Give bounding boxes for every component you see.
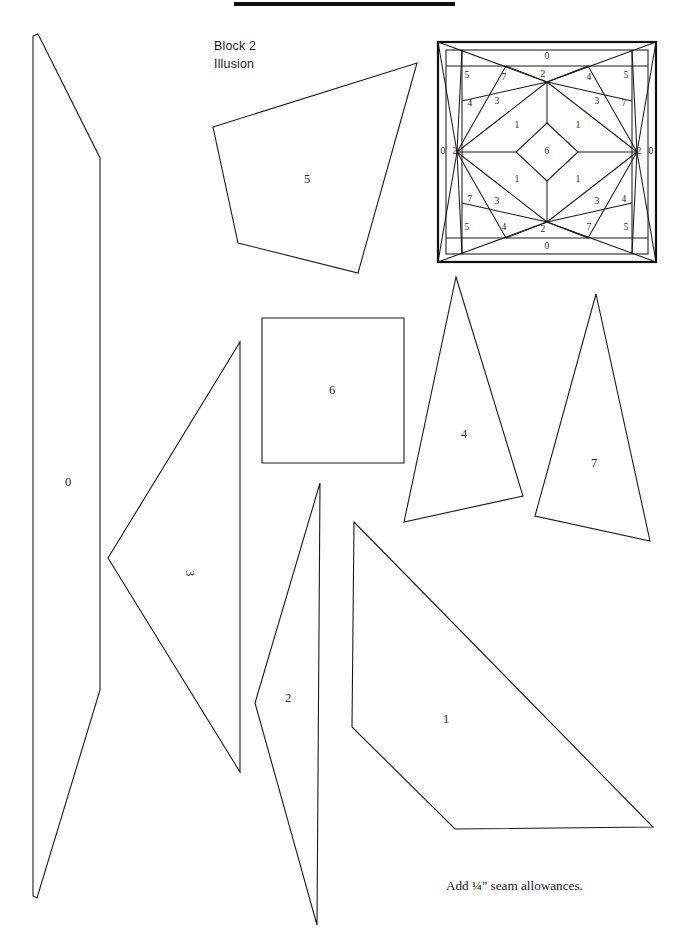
piece-3-label: 3 — [183, 570, 197, 576]
page-title: Block 2 — [214, 39, 256, 53]
block-label-corner-5-tr: 5 — [624, 69, 629, 80]
block-label-inner-1-tr: 1 — [576, 119, 581, 130]
block-label-border-top: 0 — [545, 50, 550, 61]
block-label-wedge-4-bl: 4 — [502, 221, 507, 232]
page-subtitle: Illusion — [214, 57, 254, 71]
piece-4-label: 4 — [461, 427, 468, 441]
block-label-center: 6 — [545, 145, 550, 156]
block-label-border-left: 0 — [441, 145, 446, 156]
piece-1-label: 1 — [443, 712, 449, 726]
block-label-hub-bottom: 2 — [541, 223, 546, 234]
piece-4[interactable]: 4 — [404, 277, 523, 522]
block-label-inner-1-bl: 1 — [515, 173, 520, 184]
block-label-border-bottom: 0 — [545, 240, 550, 251]
block-label-inner-1-tl: 1 — [515, 119, 520, 130]
piece-5-outline[interactable] — [213, 63, 417, 273]
block-label-wedge-4-tl: 4 — [468, 97, 473, 108]
piece-6-label: 6 — [329, 383, 335, 397]
piece-0[interactable]: 0 — [33, 34, 100, 898]
piece-1-outline[interactable] — [352, 522, 653, 829]
block-label-corner-5-br: 5 — [624, 221, 629, 232]
piece-0-outline[interactable] — [33, 34, 100, 898]
piece-7[interactable]: 7 — [535, 294, 650, 541]
pattern-sheet: 0 5 6 3 4 7 — [0, 0, 689, 952]
block-label-wedge-4-br: 4 — [622, 193, 627, 204]
piece-6[interactable]: 6 — [262, 318, 404, 463]
block-label-wedge-7-br: 7 — [587, 221, 592, 232]
piece-5[interactable]: 5 — [213, 63, 417, 273]
header-rule-bar — [234, 2, 455, 6]
block-label-hub-top: 2 — [541, 68, 546, 79]
piece-4-outline[interactable] — [404, 277, 523, 522]
seam-allowance-note: Add ¼" seam allowances. — [446, 878, 583, 894]
block-label-inner-1-br: 1 — [576, 173, 581, 184]
piece-7-label: 7 — [591, 456, 597, 470]
block-label-mid-3-bl: 3 — [495, 195, 500, 206]
block-label-mid-3-tl: 3 — [495, 95, 500, 106]
block-label-corner-5-tl: 5 — [465, 69, 470, 80]
block-label-corner-5-bl: 5 — [465, 221, 470, 232]
block-label-border-right: 0 — [649, 145, 654, 156]
block-label-wedge-7-tr: 7 — [622, 97, 627, 108]
block-diagram[interactable]: 0 0 0 0 2 2 2 2 6 1 1 1 1 3 3 3 3 5 5 5 — [438, 42, 656, 262]
piece-2[interactable]: 2 — [255, 483, 320, 925]
piece-3[interactable]: 3 — [108, 342, 240, 772]
block-label-wedge-4-tr: 4 — [587, 71, 592, 82]
pattern-canvas: 0 5 6 3 4 7 — [0, 0, 689, 952]
block-label-mid-3-br: 3 — [595, 195, 600, 206]
block-label-wedge-7-bl: 7 — [468, 193, 473, 204]
piece-0-label: 0 — [65, 475, 71, 489]
piece-2-label: 2 — [285, 691, 291, 705]
piece-3-outline[interactable] — [108, 342, 240, 772]
block-label-hub-left: 2 — [453, 145, 458, 156]
piece-1[interactable]: 1 — [352, 522, 653, 829]
block-label-wedge-7-tl: 7 — [502, 71, 507, 82]
block-label-hub-right: 2 — [637, 145, 642, 156]
piece-5-label: 5 — [304, 172, 310, 186]
block-label-mid-3-tr: 3 — [595, 95, 600, 106]
piece-7-outline[interactable] — [535, 294, 650, 541]
